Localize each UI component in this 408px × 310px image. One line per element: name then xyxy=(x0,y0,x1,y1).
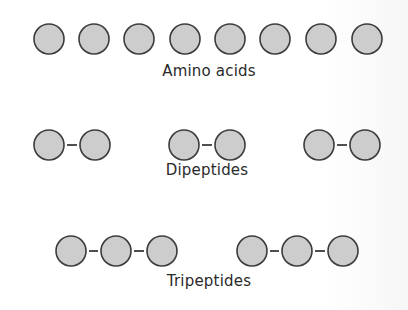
amino-acid-circle xyxy=(147,236,177,266)
amino-acids-molecule xyxy=(260,24,290,54)
amino-acid-circle xyxy=(215,130,245,160)
amino-acids-molecule xyxy=(352,24,382,54)
amino-acids-molecule xyxy=(124,24,154,54)
amino-acid-circle xyxy=(352,24,382,54)
amino-acid-circle xyxy=(215,24,245,54)
amino-acid-circle xyxy=(237,236,267,266)
dipeptides-label: Dipeptides xyxy=(166,161,249,179)
dipeptides-molecule xyxy=(304,130,380,160)
amino-acid-circle xyxy=(79,24,109,54)
amino-acids-label: Amino acids xyxy=(162,62,256,80)
amino-acid-circle xyxy=(260,24,290,54)
amino-acid-circle xyxy=(34,130,64,160)
dipeptides-molecule xyxy=(169,130,245,160)
amino-acids-molecule xyxy=(34,24,64,54)
amino-acid-circle xyxy=(34,24,64,54)
amino-acid-circle xyxy=(56,236,86,266)
amino-acids-molecule xyxy=(215,24,245,54)
tripeptides-label: Tripeptides xyxy=(167,272,251,290)
dipeptides-molecule xyxy=(34,130,110,160)
amino-acid-circle xyxy=(328,236,358,266)
peptide-diagram xyxy=(0,0,408,310)
amino-acids-molecule xyxy=(170,24,200,54)
amino-acid-circle xyxy=(124,24,154,54)
amino-acid-circle xyxy=(306,24,336,54)
amino-acid-circle xyxy=(304,130,334,160)
tripeptides-molecule xyxy=(56,236,177,266)
amino-acid-circle xyxy=(350,130,380,160)
amino-acids-molecule xyxy=(306,24,336,54)
amino-acid-circle xyxy=(169,130,199,160)
diagram-canvas: Amino acids Dipeptides Tripeptides xyxy=(0,0,408,310)
amino-acid-circle xyxy=(80,130,110,160)
amino-acid-circle xyxy=(282,236,312,266)
tripeptides-molecule xyxy=(237,236,358,266)
amino-acids-molecule xyxy=(79,24,109,54)
amino-acid-circle xyxy=(170,24,200,54)
amino-acid-circle xyxy=(101,236,131,266)
